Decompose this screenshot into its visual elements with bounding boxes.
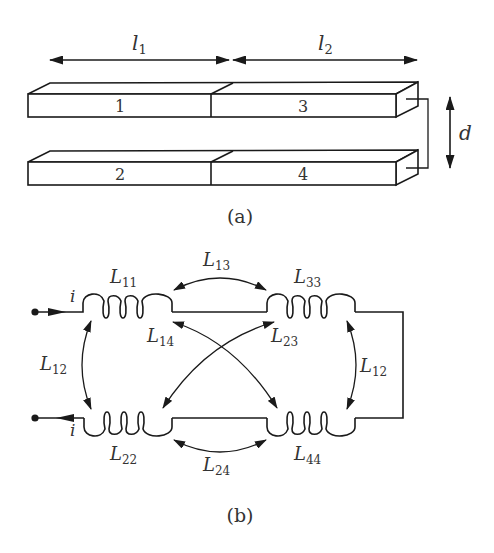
double-arrow-arc-icon — [163, 322, 274, 408]
inductor-L22: L22 — [84, 412, 172, 467]
label-L24: L24 — [202, 454, 231, 478]
segment-label-2: 2 — [115, 165, 125, 184]
label-L12-right: L12 — [359, 355, 387, 379]
coil-icon — [267, 412, 355, 436]
coil-icon — [79, 294, 172, 318]
double-arrow-arc-icon — [173, 322, 277, 408]
terminal-out: i — [31, 414, 84, 440]
inductor-L44: L44 — [267, 412, 355, 467]
current-label-out: i — [70, 420, 75, 440]
bar-bottom: 2 4 — [28, 150, 418, 185]
current-label-in: i — [70, 286, 75, 306]
label-L22: L22 — [109, 443, 137, 467]
label-l2: l2 — [318, 31, 333, 57]
mutual-L14: L14 — [146, 322, 277, 408]
dimension-d: d — [450, 97, 472, 168]
terminal-in: i — [31, 286, 79, 316]
double-arrow-arc-icon — [347, 321, 356, 409]
label-L23: L23 — [270, 325, 298, 349]
dimension-l1: l1 — [50, 31, 229, 60]
figure-b: i i L11 L33 L22 — [31, 249, 403, 526]
caption-a: (a) — [227, 205, 253, 227]
mutual-L13: L13 — [174, 249, 266, 290]
label-L14: L14 — [146, 325, 175, 349]
mutual-L23: L23 — [163, 322, 298, 408]
diagram-canvas: l1 l2 1 3 2 4 — [0, 0, 494, 553]
segment-label-4: 4 — [298, 165, 308, 184]
label-L44: L44 — [293, 443, 322, 467]
label-l1: l1 — [132, 31, 147, 57]
mutual-L24: L24 — [174, 440, 266, 478]
mutual-L12-right: L12 — [347, 321, 387, 409]
segment-label-1: 1 — [115, 97, 125, 116]
label-L33: L33 — [293, 266, 321, 290]
mutual-L12-left: L12 — [39, 321, 91, 409]
dimension-l2: l2 — [233, 31, 417, 60]
figure-a: l1 l2 1 3 2 4 — [28, 31, 472, 227]
current-arrow-right-icon — [48, 308, 66, 316]
inductor-L11: L11 — [79, 266, 172, 318]
coil-icon — [267, 294, 355, 318]
label-d: d — [459, 121, 472, 145]
coil-icon — [84, 412, 172, 436]
label-L11: L11 — [109, 266, 137, 290]
bar-top-front-face — [28, 94, 396, 117]
double-arrow-arc-icon — [174, 278, 266, 290]
label-L12-left: L12 — [39, 353, 67, 377]
bar-top: 1 3 — [28, 82, 418, 117]
bar-bottom-front-face — [28, 162, 396, 185]
segment-label-3: 3 — [298, 97, 308, 116]
double-arrow-arc-icon — [82, 321, 91, 409]
double-arrow-arc-icon — [174, 440, 266, 452]
caption-b: (b) — [227, 504, 254, 526]
inductor-L33: L33 — [267, 266, 355, 318]
label-L13: L13 — [202, 249, 230, 273]
